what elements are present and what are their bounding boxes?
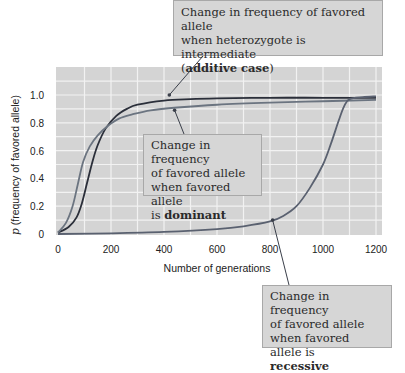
x-axis-label: Number of generations xyxy=(164,262,271,274)
callout-line: when favored allele xyxy=(151,180,254,208)
callout-line: is dominant xyxy=(151,208,254,222)
callout-dominant: Change in frequency of favored allele wh… xyxy=(143,134,262,196)
x-axis-ticks: 020040060080010001200 xyxy=(55,244,387,255)
callout-recessive: Change in frequency of favored allele wh… xyxy=(262,285,392,348)
leader-dot xyxy=(173,108,177,112)
callout-line: (additive case) xyxy=(181,61,375,75)
callout-additive-case: Change in frequency of favored allele wh… xyxy=(173,0,383,56)
callout-line: Change in frequency of favored allele xyxy=(181,5,375,33)
y-tick-label: 1.0 xyxy=(30,90,44,101)
x-tick-label: 200 xyxy=(103,244,120,255)
x-tick-label: 800 xyxy=(262,244,279,255)
x-tick-label: 600 xyxy=(209,244,226,255)
callout-line: when heterozygote is intermediate xyxy=(181,33,375,61)
y-tick-label: 0.6 xyxy=(30,146,44,157)
y-tick-label: 0.8 xyxy=(30,118,44,129)
leader-dot xyxy=(168,93,172,97)
y-tick-label: 0.4 xyxy=(30,173,44,184)
y-tick-label: 0 xyxy=(38,229,44,240)
x-tick-label: 1200 xyxy=(365,244,388,255)
x-tick-label: 1000 xyxy=(312,244,335,255)
callout-line: of favored allele xyxy=(270,317,384,331)
y-axis-label: p (frequency of favored allele) xyxy=(9,95,21,235)
y-axis-ticks: 00.20.40.60.81.0 xyxy=(30,90,44,240)
callout-line: recessive xyxy=(270,359,384,373)
leader-dot xyxy=(271,218,275,222)
callout-line: Change in frequency xyxy=(151,138,254,166)
callout-line: of favored allele xyxy=(151,166,254,180)
callout-line: Change in frequency xyxy=(270,289,384,317)
x-tick-label: 0 xyxy=(55,244,61,255)
x-tick-label: 400 xyxy=(156,244,173,255)
y-tick-label: 0.2 xyxy=(30,201,44,212)
callout-line: when favored allele is xyxy=(270,331,384,359)
